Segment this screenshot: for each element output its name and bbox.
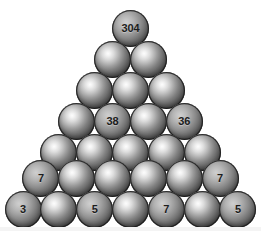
- pyramid-ball[interactable]: 5: [76, 191, 113, 228]
- pyramid-ball-label: 7: [38, 173, 44, 184]
- pyramid-ball-label: 7: [163, 204, 169, 215]
- pyramid-ball[interactable]: 3: [5, 191, 42, 228]
- pyramid-ball-label: 7: [217, 173, 223, 184]
- pyramid-ball[interactable]: [112, 191, 149, 228]
- pyramid-ball[interactable]: [184, 191, 221, 228]
- pyramid-ball-label: 5: [235, 204, 241, 215]
- bottom-edge-band: [0, 227, 261, 231]
- pyramid-ball[interactable]: [40, 191, 77, 228]
- number-pyramid-diagram: 304 38 36 7 7 3 5 7 5: [0, 0, 261, 231]
- pyramid-ball-label: 38: [107, 116, 119, 127]
- pyramid-ball[interactable]: 5: [219, 191, 256, 228]
- pyramid-ball-label: 304: [121, 23, 139, 34]
- pyramid-ball-label: 3: [20, 204, 26, 215]
- pyramid-ball-label: 36: [178, 116, 190, 127]
- pyramid-row-7: 3 5 7 5: [0, 191, 261, 228]
- pyramid-ball-label: 5: [92, 204, 98, 215]
- pyramid-ball[interactable]: 7: [148, 191, 185, 228]
